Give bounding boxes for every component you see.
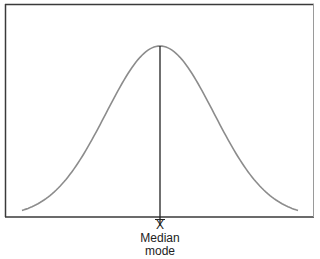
mode-label: mode [120, 245, 200, 258]
mean-xbar-text: X [155, 219, 165, 231]
